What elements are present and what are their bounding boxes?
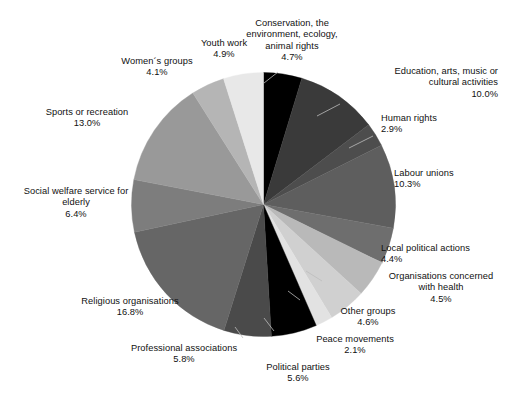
slice-label-labour-unions: Labour unions 10.3%	[394, 168, 504, 191]
slice-label-professional-associations-line1: Professional associations	[113, 343, 255, 354]
slice-label-sports-recreation: Sports or recreation 13.0%	[25, 107, 149, 130]
slice-percent-education: 10.0%	[318, 89, 498, 100]
slice-percent-health-organisations: 4.5%	[373, 294, 509, 305]
slice-label-youth-work-line1: Youth work	[185, 38, 263, 49]
slice-label-human-rights: Human rights 2.9%	[381, 113, 501, 136]
slice-percent-womens-groups: 4.1%	[105, 67, 209, 78]
slice-label-political-parties: Political parties 5.6%	[250, 362, 346, 385]
slice-label-health-organisations-line1: Organisations concerned	[373, 271, 509, 282]
slice-percent-sports-recreation: 13.0%	[25, 118, 149, 129]
slice-label-local-political-actions: Local political actions 4.4%	[381, 243, 506, 266]
pie-chart-figure: Conservation, the environment, ecology, …	[0, 0, 509, 400]
slice-percent-labour-unions: 10.3%	[394, 179, 504, 190]
slice-percent-social-welfare: 6.4%	[8, 209, 144, 220]
slice-percent-professional-associations: 5.8%	[113, 354, 255, 365]
slice-label-social-welfare-line1: Social welfare service for	[8, 186, 144, 197]
slice-label-political-parties-line1: Political parties	[250, 362, 346, 373]
slice-percent-local-political-actions: 4.4%	[381, 254, 506, 265]
slice-label-health-organisations-line2: with health	[373, 282, 509, 293]
slice-label-other-groups-line1: Other groups	[326, 306, 410, 317]
slice-label-social-welfare: Social welfare service for elderly 6.4%	[8, 186, 144, 220]
slice-label-other-groups: Other groups 4.6%	[326, 306, 410, 329]
slice-label-sports-recreation-line1: Sports or recreation	[25, 107, 149, 118]
slice-label-social-welfare-line2: elderly	[8, 197, 144, 208]
slice-percent-peace-movements: 2.1%	[303, 345, 407, 356]
slice-label-youth-work: Youth work 4.9%	[185, 38, 263, 61]
slice-label-labour-unions-line1: Labour unions	[394, 168, 504, 179]
slice-percent-other-groups: 4.6%	[326, 317, 410, 328]
slice-label-health-organisations: Organisations concerned with health 4.5%	[373, 271, 509, 305]
slice-label-religious-organisations: Religious organisations 16.8%	[60, 296, 200, 319]
slice-label-education-line1: Education, arts, music or	[318, 66, 498, 77]
slice-label-religious-organisations-line1: Religious organisations	[60, 296, 200, 307]
slice-label-education-line2: cultural activities	[318, 77, 498, 88]
slice-label-professional-associations: Professional associations 5.8%	[113, 343, 255, 366]
slice-label-peace-movements-line1: Peace movements	[303, 334, 407, 345]
slice-percent-political-parties: 5.6%	[250, 373, 346, 384]
slice-label-conservation-line1: Conservation, the	[222, 18, 362, 29]
slice-label-education: Education, arts, music or cultural activ…	[318, 66, 498, 100]
slice-label-local-political-actions-line1: Local political actions	[381, 243, 506, 254]
slice-percent-human-rights: 2.9%	[381, 124, 501, 135]
slice-percent-religious-organisations: 16.8%	[60, 307, 200, 318]
slice-label-peace-movements: Peace movements 2.1%	[303, 334, 407, 357]
slice-label-human-rights-line1: Human rights	[381, 113, 501, 124]
slice-percent-youth-work: 4.9%	[185, 49, 263, 60]
